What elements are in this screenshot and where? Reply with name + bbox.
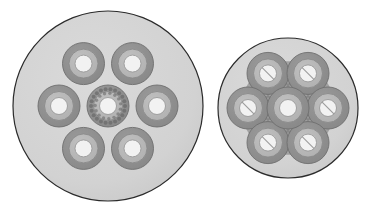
speckle-dot [104, 121, 108, 125]
speckle-dot [113, 89, 117, 93]
speckle-dot [116, 112, 119, 115]
speckle-dot [117, 91, 121, 95]
speckle-dot [92, 113, 96, 117]
speckle-dot [117, 117, 121, 121]
speckle-dot [113, 93, 116, 96]
left-ring-3 [38, 85, 80, 127]
cross-section-diagram [0, 0, 375, 213]
left-center-ring [87, 85, 129, 127]
speckle-dot [104, 87, 108, 91]
ring-core [75, 140, 92, 157]
speckle-dot [122, 99, 126, 103]
speckle-dot [99, 89, 103, 93]
ring-core [100, 98, 117, 115]
speckle-dot [120, 113, 124, 117]
speckle-dot [95, 117, 99, 121]
ring-core [124, 140, 141, 157]
speckle-dot [113, 119, 117, 123]
speckle-dot [94, 104, 97, 107]
speckle-dot [123, 104, 127, 108]
speckle-dot [107, 117, 110, 120]
left-ring-2 [112, 43, 154, 85]
speckle-dot [122, 109, 126, 113]
speckle-dot [112, 116, 115, 119]
speckle-dot [108, 121, 112, 125]
speckle-dot [97, 113, 100, 116]
speckle-dot [90, 109, 94, 113]
speckle-dot [95, 99, 98, 102]
speckle-dot [119, 107, 122, 110]
speckle-dot [94, 109, 97, 112]
speckle-dot [98, 94, 101, 97]
speckle-dot [102, 116, 105, 119]
speckle-dot [99, 119, 103, 123]
ring-core [280, 100, 297, 117]
speckle-dot [92, 95, 96, 99]
speckle-dot [117, 97, 120, 100]
speckle-dot [108, 87, 112, 91]
speckle-dot [119, 102, 122, 105]
ring-core [51, 98, 68, 115]
right-disc [218, 38, 358, 178]
ring-core [75, 55, 92, 72]
left-ring-5 [63, 127, 105, 169]
speckle-dot [95, 91, 99, 95]
left-ring-6 [112, 127, 154, 169]
ring-core [149, 98, 166, 115]
left-ring-1 [63, 43, 105, 85]
ring-core [124, 55, 141, 72]
speckle-dot [103, 92, 106, 95]
speckle-dot [120, 95, 124, 99]
speckle-dot [90, 99, 94, 103]
left-ring-4 [136, 85, 178, 127]
speckle-dot [89, 104, 93, 108]
figure-root: Two circular bundle cross-sections [0, 0, 375, 213]
right-center-ring [267, 87, 309, 129]
left-disc [13, 11, 203, 201]
speckle-dot [108, 92, 111, 95]
